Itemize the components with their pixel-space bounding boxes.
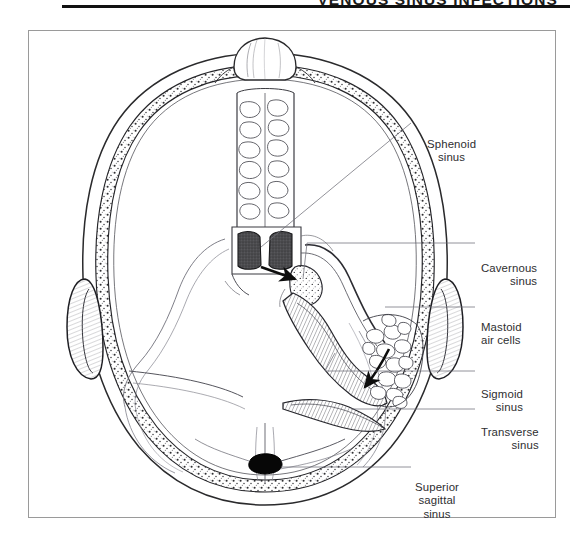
label-line: Transverse	[481, 426, 539, 439]
label-line: Mastoid	[481, 321, 522, 334]
label-line: sagittal	[415, 494, 459, 507]
label-transverse-sinus: Transverse sinus	[481, 426, 539, 453]
running-head: VENOUS SINUS INFECTIONS	[317, 0, 558, 9]
label-line: air cells	[481, 334, 522, 347]
label-line: sinus	[481, 439, 539, 452]
label-sigmoid-sinus: Sigmoid sinus	[481, 388, 523, 415]
label-sphenoid-sinus: Sphenoid sinus	[427, 138, 476, 165]
label-cavernous-sinus: Cavernous sinus	[481, 262, 537, 289]
sphenoid-sinus-left	[238, 232, 261, 270]
figure-frame: Sphenoid sinus Cavernous sinus Mastoid a…	[28, 30, 556, 518]
superior-sagittal-sinus	[249, 454, 282, 474]
skull-axial-illustration	[29, 31, 557, 519]
label-mastoid-air-cells: Mastoid air cells	[481, 321, 522, 348]
label-line: Cavernous	[481, 262, 537, 275]
label-line: sinus	[481, 401, 523, 414]
label-line: sinus	[427, 151, 476, 164]
page-root: VENOUS SINUS INFECTIONS	[0, 0, 570, 544]
label-line: Superior	[415, 481, 459, 494]
nose-outline	[234, 38, 296, 80]
label-line: Sphenoid	[427, 138, 476, 151]
label-line: Sigmoid	[481, 388, 523, 401]
label-superior-sagittal-sinus: Superior sagittal sinus	[415, 481, 459, 521]
label-line: sinus	[415, 508, 459, 521]
label-line: sinus	[481, 275, 537, 288]
